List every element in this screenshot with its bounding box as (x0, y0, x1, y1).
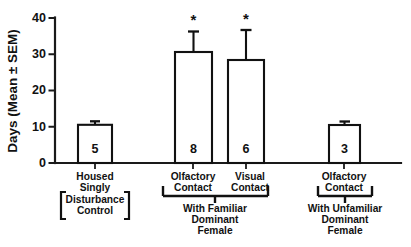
unfamiliar-group-line-1: With Unfamiliar (308, 203, 383, 214)
category-label-4-line-1: Olfactory (322, 171, 367, 182)
unfamiliar-group-line-2: Dominant (322, 214, 370, 225)
chart-container: Days (Mean ± SEM) 40 30 20 10 0 (0, 0, 411, 247)
significance-star-3: * (243, 10, 249, 27)
control-group-line-1: Disturbance (66, 194, 125, 205)
y-tick-label-0: 0 (39, 156, 46, 170)
category-label-4-line-2: Contact (325, 182, 364, 193)
y-tick-label-30: 30 (32, 47, 46, 61)
category-label-3-line-1: Visual (235, 171, 265, 182)
category-label-2: Olfactory Contact (171, 171, 216, 193)
bar-chart-figure: Days (Mean ± SEM) 40 30 20 10 0 (0, 0, 411, 247)
category-label-4: Olfactory Contact (322, 171, 367, 193)
bar-sample-size-4: 3 (341, 142, 348, 156)
y-tick-group: 40 30 20 10 0 (32, 11, 55, 170)
y-tick-label-40: 40 (32, 11, 46, 25)
y-tick-label-20: 20 (32, 83, 46, 97)
y-tick-label-10: 10 (32, 120, 46, 134)
unfamiliar-group-line-3: Female (327, 225, 362, 236)
bar-group-4[interactable]: 3 (329, 122, 360, 164)
familiar-group-line-1: With Familiar (183, 203, 247, 214)
control-group-label: Disturbance Control (66, 194, 125, 216)
category-label-3: Visual Contact (231, 171, 270, 193)
control-group-line-2: Control (77, 205, 113, 216)
bar-group-1[interactable]: 5 (78, 121, 112, 163)
bar-sample-size-3: 6 (243, 142, 250, 156)
category-label-2-line-1: Olfactory (171, 171, 216, 182)
category-label-1: Housed Singly (76, 171, 113, 193)
familiar-group-label: With Familiar Dominant Female (183, 203, 247, 236)
significance-star-2: * (191, 11, 197, 28)
category-label-3-line-2: Contact (231, 182, 270, 193)
category-label-1-line-2: Singly (80, 182, 111, 193)
unfamiliar-group-label: With Unfamiliar Dominant Female (308, 203, 383, 236)
bar-group-3[interactable]: * 6 (228, 10, 264, 163)
y-axis-label: Days (Mean ± SEM) (5, 29, 20, 153)
familiar-group-line-2: Dominant (192, 214, 240, 225)
category-label-2-line-2: Contact (174, 182, 213, 193)
bar-sample-size-2: 8 (190, 142, 197, 156)
bar-sample-size-1: 5 (92, 142, 99, 156)
bar-group-2[interactable]: * 8 (175, 11, 212, 163)
familiar-group-line-3: Female (197, 225, 232, 236)
category-label-1-line-1: Housed (76, 171, 113, 182)
